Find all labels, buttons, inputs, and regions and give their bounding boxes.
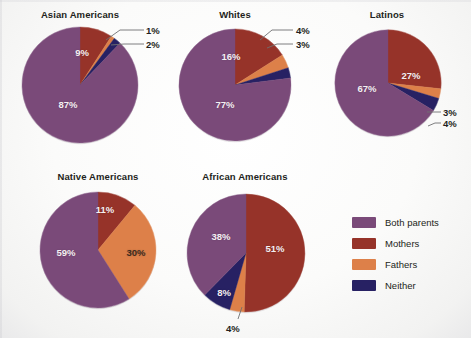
- pie-label-latinos-mothers: 27%: [401, 70, 420, 81]
- pie-label-latinos-neither: 4%: [443, 118, 457, 129]
- legend-item-neither[interactable]: Neither: [352, 275, 439, 296]
- legend-item-both-parents[interactable]: Both parents: [352, 212, 439, 233]
- pie-label-african-neither: 8%: [217, 287, 231, 298]
- pie-title-native-americans: Native Americans: [33, 171, 163, 182]
- legend-item-fathers[interactable]: Fathers: [352, 254, 439, 275]
- pie-label-native-mothers: 11%: [96, 204, 115, 215]
- pie-label-latinos-both-parents: 67%: [357, 83, 376, 94]
- pie-label-latinos-fathers: 3%: [443, 107, 457, 118]
- legend-swatch-both-parents: [352, 217, 376, 228]
- legend-swatch-neither: [352, 280, 376, 291]
- pie-title-african-americans: African Americans: [175, 171, 315, 182]
- legend-swatch-fathers: [352, 259, 376, 270]
- pie-label-asian-fathers: 1%: [146, 25, 160, 36]
- legend: Both parents Mothers Fathers Neither: [352, 212, 439, 296]
- pie-graphic-whites: [177, 27, 293, 143]
- pie-label-african-mothers: 51%: [265, 243, 284, 254]
- pie-label-native-both-parents: 59%: [56, 247, 75, 258]
- legend-swatch-mothers: [352, 238, 376, 249]
- pie-title-asian-americans: Asian Americans: [20, 9, 140, 20]
- pie-label-whites-mothers: 16%: [221, 51, 240, 62]
- legend-label-neither: Neither: [385, 280, 416, 291]
- pie-graphic-asian-americans: [20, 25, 140, 145]
- figure-canvas: Asian Americans 1% 2% 87% 9% Whites 4% 3…: [0, 0, 471, 338]
- pie-label-african-both-parents: 38%: [211, 231, 230, 242]
- legend-label-fathers: Fathers: [385, 259, 417, 270]
- pie-graphic-latinos: [333, 28, 443, 138]
- legend-item-mothers[interactable]: Mothers: [352, 233, 439, 254]
- pie-label-african-fathers: 4%: [226, 323, 240, 334]
- legend-label-mothers: Mothers: [385, 238, 419, 249]
- pie-label-native-fathers: 30%: [126, 247, 145, 258]
- pie-label-whites-neither: 3%: [296, 39, 310, 50]
- pie-label-asian-neither: 2%: [146, 39, 160, 50]
- pie-label-whites-both-parents: 77%: [215, 99, 234, 110]
- pie-graphic-african-americans: [185, 192, 307, 314]
- pie-title-whites: Whites: [180, 9, 290, 20]
- pie-label-asian-mothers: 9%: [75, 47, 89, 58]
- pie-label-asian-both-parents: 87%: [58, 99, 77, 110]
- pie-title-latinos: Latinos: [337, 9, 437, 20]
- legend-label-both-parents: Both parents: [385, 217, 439, 228]
- pie-label-whites-fathers: 4%: [296, 25, 310, 36]
